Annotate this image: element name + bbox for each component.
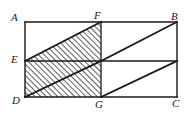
vertex-label-e: E bbox=[11, 54, 18, 65]
vertex-label-d: D bbox=[12, 95, 20, 106]
vertex-label-a: A bbox=[11, 12, 18, 23]
diagonal-mb bbox=[101, 22, 177, 61]
vertex-label-c: C bbox=[172, 98, 179, 109]
shaded-region-group bbox=[25, 22, 101, 97]
vertex-label-f: F bbox=[94, 10, 101, 21]
diagonal-gc-upper bbox=[101, 61, 177, 97]
vertex-label-b: B bbox=[171, 11, 178, 22]
geometry-figure: A F B E D G C bbox=[0, 0, 192, 118]
vertex-label-g: G bbox=[95, 99, 103, 110]
